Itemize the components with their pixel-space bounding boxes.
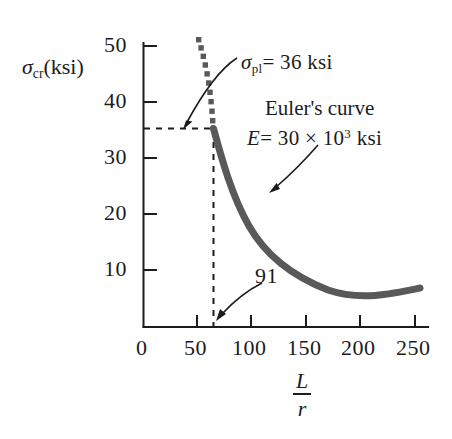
- euler-curve: [214, 129, 421, 296]
- modulus-unit: ksi: [351, 126, 382, 150]
- sigma-pl-symbol: σ: [241, 50, 252, 74]
- y-tick-label-40: 40: [104, 90, 127, 112]
- sigma-pl-value: = 36 ksi: [262, 50, 332, 74]
- y-axis-subscript: cr: [33, 66, 44, 81]
- euler-curve-label: Euler's curve: [265, 98, 374, 119]
- y-axis-sigma-symbol: σ: [22, 54, 33, 79]
- x-axis-title-fraction: L r: [293, 369, 311, 420]
- x-axis-ticks: [197, 315, 415, 327]
- y-tick-label-20: 20: [104, 202, 127, 224]
- y-tick-label-10: 10: [104, 258, 127, 280]
- x-tick-label-100: 100: [232, 337, 267, 359]
- slenderness-marker-label: 91: [255, 265, 278, 287]
- y-axis-ticks: [143, 46, 157, 270]
- multiplication-icon: ×: [305, 126, 317, 150]
- y-tick-label-30: 30: [104, 146, 127, 168]
- x-tick-label-150: 150: [287, 337, 322, 359]
- x-axis-denominator: r: [293, 396, 311, 420]
- sigma-pl-subscript: pl: [252, 61, 263, 76]
- origin-label-0: 0: [136, 337, 148, 359]
- modulus-equals: = 30: [260, 126, 305, 150]
- x-axis-numerator: L: [293, 369, 311, 393]
- inelastic-dotted-branch: [196, 37, 215, 123]
- y-axis-title: σcr(ksi): [22, 56, 84, 80]
- sigma-pl-annotation: σpl= 36 ksi: [241, 52, 333, 75]
- y-axis-unit: (ksi): [43, 54, 83, 79]
- x-tick-label-250: 250: [396, 337, 431, 359]
- modulus-symbol: E: [247, 126, 260, 150]
- x-tick-label-200: 200: [341, 337, 376, 359]
- euler-buckling-chart: σcr(ksi) 50 40 30 20 10 0 50 100 150 200…: [0, 0, 452, 439]
- fraction-bar: [293, 393, 311, 395]
- slenderness-leader-arrow: [216, 283, 262, 321]
- x-tick-label-50: 50: [184, 337, 207, 359]
- modulus-annotation: E= 30 × 103 ksi: [247, 127, 382, 149]
- euler-curve-leader-arrow: [269, 145, 318, 193]
- modulus-base: 10: [317, 126, 344, 150]
- y-tick-label-50: 50: [104, 34, 127, 56]
